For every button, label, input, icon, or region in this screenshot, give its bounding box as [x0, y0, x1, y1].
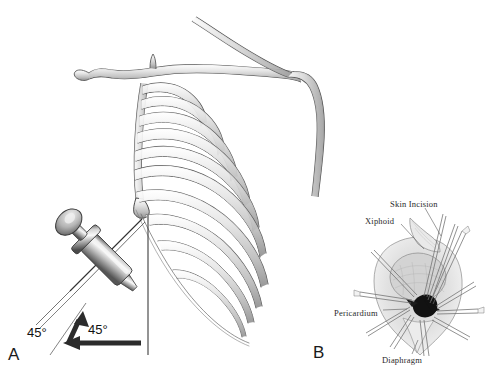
pericardiocentesis-figure — [0, 0, 486, 374]
angle-label-oblique: 45° — [27, 325, 47, 340]
label-xiphoid: Xiphoid — [365, 216, 394, 226]
angle-label-horizontal: 45° — [88, 322, 108, 337]
label-pericardium: Pericardium — [334, 308, 378, 318]
label-diaphragm: Diaphragm — [382, 355, 422, 365]
panel-a-label: A — [8, 345, 20, 365]
panel-b-label: B — [313, 343, 325, 363]
label-skin-incision: Skin Incision — [390, 199, 438, 209]
